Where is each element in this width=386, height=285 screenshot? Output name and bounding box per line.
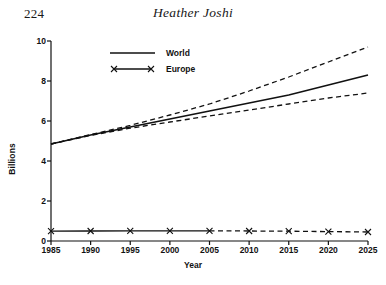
ytick-label: 4 — [20, 156, 46, 166]
figure-population-projection: 0 2 4 6 8 10 1985 1990 1995 2000 2005 20… — [0, 28, 386, 285]
xtick-label: 2020 — [308, 245, 348, 255]
legend-label-world: World — [166, 48, 190, 58]
chart-legend-marks — [110, 53, 155, 72]
figure-caption-truncated — [22, 274, 362, 283]
xtick-label: 1990 — [71, 245, 111, 255]
running-title: Heather Joshi — [0, 5, 386, 21]
ytick-label: 6 — [20, 116, 46, 126]
y-axis-title: Billions — [7, 129, 17, 189]
running-head: 224 Heather Joshi — [0, 0, 386, 28]
xtick-label: 2025 — [348, 245, 386, 255]
x-axis-title: Year — [0, 260, 386, 270]
xtick-label: 1995 — [110, 245, 150, 255]
xtick-label: 2005 — [190, 245, 230, 255]
book-page: 224 Heather Joshi 0 2 4 6 8 10 1985 1990… — [0, 0, 386, 285]
ytick-label: 8 — [20, 76, 46, 86]
chart-axes — [51, 41, 368, 241]
legend-label-europe: Europe — [166, 64, 195, 74]
chart-ticks — [47, 41, 368, 245]
xtick-label: 2015 — [269, 245, 309, 255]
xtick-label: 2010 — [229, 245, 269, 255]
ytick-label: 10 — [20, 36, 46, 46]
xtick-label: 1985 — [31, 245, 71, 255]
chart-series — [48, 47, 371, 235]
xtick-label: 2000 — [150, 245, 190, 255]
ytick-label: 2 — [20, 196, 46, 206]
